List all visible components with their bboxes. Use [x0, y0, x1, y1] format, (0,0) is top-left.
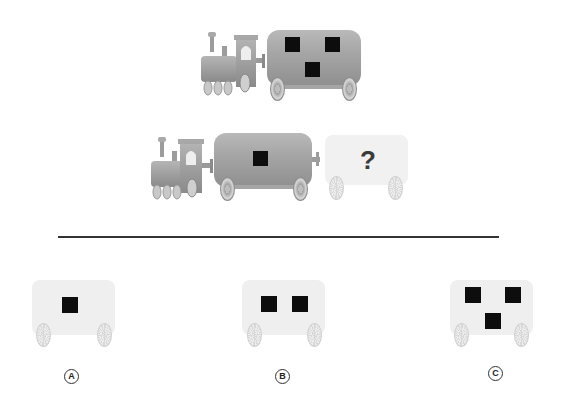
- divider-line: [58, 236, 499, 238]
- square: [485, 313, 501, 329]
- square: [465, 287, 481, 303]
- locomotive-icon: [198, 30, 270, 98]
- wheel-icon: [220, 177, 235, 201]
- wheel-icon: [342, 77, 357, 101]
- square: [305, 62, 320, 77]
- wheel-icon: [247, 323, 262, 347]
- square: [292, 296, 308, 312]
- option-label-a[interactable]: A: [64, 369, 79, 384]
- wheel-icon: [270, 77, 285, 101]
- wheel-icon: [514, 323, 529, 347]
- wheel-icon: [454, 323, 469, 347]
- square: [261, 296, 277, 312]
- option-label-c[interactable]: C: [488, 366, 503, 381]
- question-mark: ?: [360, 147, 376, 173]
- wheel-icon: [388, 176, 403, 200]
- wheel-icon: [329, 176, 344, 200]
- wheel-icon: [97, 323, 112, 347]
- option-label-b[interactable]: B: [275, 369, 290, 384]
- square: [505, 287, 521, 303]
- wheel-icon: [36, 323, 51, 347]
- square: [253, 151, 268, 166]
- square: [325, 37, 340, 52]
- locomotive-icon: [146, 135, 218, 201]
- square: [62, 297, 78, 313]
- coupler: [316, 152, 319, 166]
- square: [285, 37, 300, 52]
- wheel-icon: [293, 177, 308, 201]
- wheel-icon: [307, 323, 322, 347]
